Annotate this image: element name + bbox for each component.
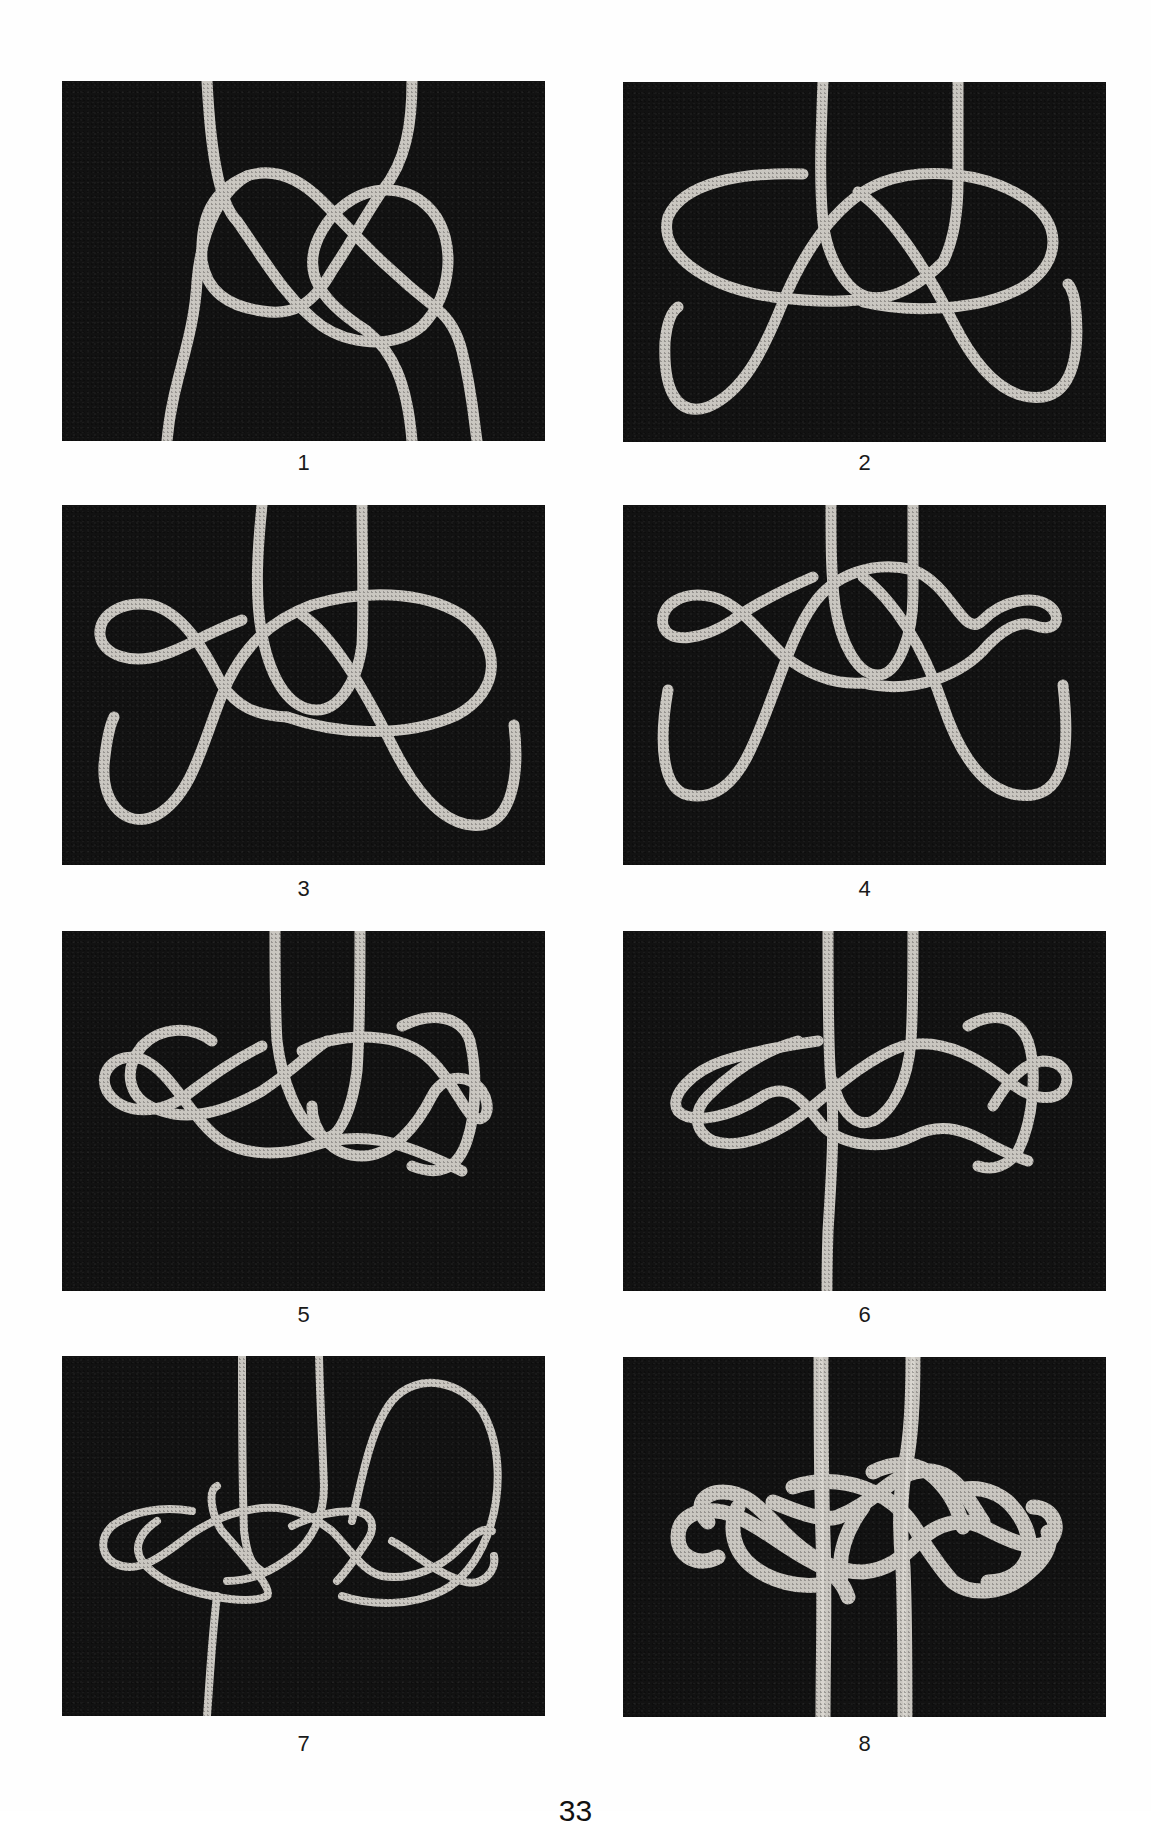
knot-step-photo-3 (62, 505, 545, 865)
figure-label-8: 8 (623, 1733, 1106, 1755)
figure-label-2: 2 (623, 452, 1106, 474)
knot-step-photo-2 (623, 82, 1106, 442)
figure-label-7: 7 (62, 1733, 545, 1755)
rope-diagram-step-5 (62, 931, 545, 1291)
knot-step-photo-7 (62, 1356, 545, 1716)
figure-label-6: 6 (623, 1304, 1106, 1326)
rope-diagram-step-1 (62, 81, 545, 441)
page-number: 33 (0, 1796, 1151, 1825)
knot-step-photo-6 (623, 931, 1106, 1291)
rope-diagram-step-6 (623, 931, 1106, 1291)
rope-diagram-step-4 (623, 505, 1106, 865)
knot-step-photo-8 (623, 1357, 1106, 1717)
figure-label-1: 1 (62, 452, 545, 474)
rope-diagram-step-8 (623, 1357, 1106, 1717)
figure-label-5: 5 (62, 1304, 545, 1326)
figure-label-4: 4 (623, 878, 1106, 900)
rope-diagram-step-3 (62, 505, 545, 865)
rope-diagram-step-2 (623, 82, 1106, 442)
knot-step-photo-1 (62, 81, 545, 441)
figure-label-3: 3 (62, 878, 545, 900)
knot-step-photo-4 (623, 505, 1106, 865)
rope-diagram-step-7 (62, 1356, 545, 1716)
knot-step-photo-5 (62, 931, 545, 1291)
